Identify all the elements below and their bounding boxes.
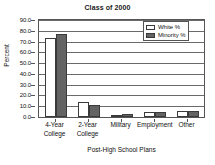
x-tick-label: Employment <box>137 121 170 130</box>
y-tick-mark <box>31 106 35 107</box>
legend-item: Minority % <box>146 31 186 39</box>
bar <box>144 112 155 117</box>
legend-item: White % <box>146 23 186 31</box>
y-tick-label: 10.0 <box>20 103 31 109</box>
bar <box>45 38 56 117</box>
bar <box>111 115 122 117</box>
x-tick-mark <box>121 119 122 122</box>
y-tick-mark <box>31 20 35 21</box>
y-tick-mark <box>31 52 35 53</box>
bar <box>78 102 89 117</box>
y-tick-label: 80.0 <box>20 28 31 34</box>
x-tick-mark <box>88 119 89 122</box>
x-tick-mark <box>187 119 188 122</box>
x-tick-mark <box>154 119 155 122</box>
legend-swatch-icon <box>146 25 155 30</box>
legend-swatch-icon <box>146 33 155 38</box>
x-tick-label: Military <box>104 121 137 130</box>
y-axis: 0.010.020.030.040.050.060.070.080.090.0 <box>0 19 35 118</box>
y-tick-label: 70.0 <box>20 39 31 45</box>
bar <box>155 112 166 117</box>
x-axis: 4-Year College2-Year CollegeMilitaryEmpl… <box>38 119 205 149</box>
x-tick-label: Other <box>170 121 203 130</box>
y-tick-label: 30.0 <box>20 82 31 88</box>
x-tick-label: 4-Year College <box>38 121 71 138</box>
bar <box>188 111 199 117</box>
y-tick-mark <box>31 74 35 75</box>
x-tick-label: 2-Year College <box>71 121 104 138</box>
y-tick-mark <box>31 31 35 32</box>
y-tick-label: 60.0 <box>20 49 31 55</box>
y-tick-mark <box>31 63 35 64</box>
x-axis-title: Post-High School Plans <box>38 146 205 153</box>
y-tick-label: 20.0 <box>20 92 31 98</box>
x-tick-mark <box>55 119 56 122</box>
y-tick-mark <box>31 42 35 43</box>
legend-label: White % <box>158 24 180 30</box>
y-tick-label: 90.0 <box>20 17 31 23</box>
y-tick-mark <box>31 117 35 118</box>
chart-legend: White %Minority % <box>143 21 189 41</box>
y-tick-label: 40.0 <box>20 71 31 77</box>
y-tick-label: 0.0 <box>23 114 31 120</box>
bar <box>122 114 133 117</box>
bar <box>89 105 100 117</box>
y-tick-label: 50.0 <box>20 60 31 66</box>
legend-label: Minority % <box>158 32 186 38</box>
chart-title: Class of 2000 <box>0 4 215 11</box>
y-tick-mark <box>31 85 35 86</box>
bar <box>56 34 67 117</box>
bar-chart: Class of 2000 Percent 0.010.020.030.040.… <box>0 0 215 165</box>
y-tick-mark <box>31 95 35 96</box>
bar <box>177 111 188 117</box>
